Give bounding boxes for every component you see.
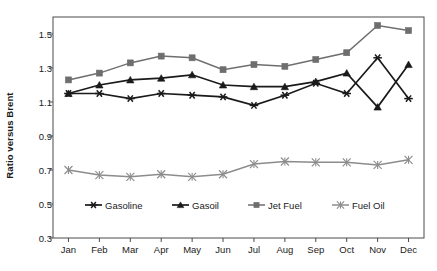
legend-label: Jet Fuel [268, 200, 302, 211]
data-point-marker [220, 67, 226, 73]
series-line [68, 160, 408, 177]
data-point-marker [65, 77, 71, 83]
data-point-marker [157, 90, 166, 96]
series-gasoil [65, 61, 412, 110]
legend-label: Fuel Oil [352, 200, 385, 211]
data-point-marker [96, 70, 102, 76]
data-point-marker [251, 62, 257, 68]
data-point-marker [406, 28, 412, 34]
data-point-marker [189, 55, 195, 61]
data-point-marker [254, 202, 259, 207]
legend-label: Gasoil [192, 200, 219, 211]
legend-label: Gasoline [105, 200, 143, 211]
series-fuel-oil [64, 156, 412, 181]
data-point-marker [405, 61, 412, 68]
data-point-marker [281, 92, 290, 98]
data-point-marker [127, 60, 133, 66]
data-point-marker [313, 57, 319, 63]
data-point-marker [90, 202, 98, 208]
series-jet-fuel [65, 23, 411, 83]
data-point-marker [95, 90, 104, 96]
series-line [68, 26, 408, 80]
data-point-marker [158, 53, 164, 59]
data-point-marker [282, 63, 288, 69]
line-plot: GasolineGasoilJet FuelFuel Oil [0, 0, 437, 271]
chart-container: Ratio versus Brent 1.51.31.10.90.70.50.3… [0, 0, 437, 271]
legend: GasolineGasoilJet FuelFuel Oil [85, 200, 385, 211]
data-point-marker [250, 102, 259, 108]
data-point-marker [188, 92, 197, 98]
data-point-marker [404, 95, 413, 101]
data-point-marker [344, 50, 350, 56]
data-point-marker [343, 70, 350, 77]
data-point-marker [219, 94, 228, 100]
data-point-marker [126, 95, 135, 101]
data-point-marker [375, 23, 381, 29]
